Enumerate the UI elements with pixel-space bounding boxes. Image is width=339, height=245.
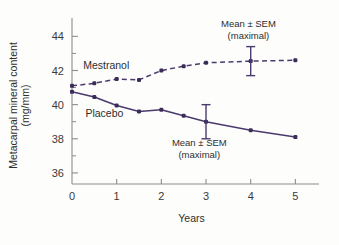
- annotation-placebo-sem-line1: Mean ± SEM: [172, 137, 227, 148]
- data-point-marker: [159, 69, 163, 73]
- y-tick-label: 38: [52, 133, 64, 145]
- y-axis-tick-labels: 3638404244: [52, 30, 64, 179]
- x-tick-label: 2: [158, 190, 164, 202]
- annotation-mestranol-sem-line2: (maximal): [228, 30, 270, 41]
- data-point-marker: [182, 114, 186, 118]
- y-tick-label: 42: [52, 65, 64, 77]
- x-tick-label: 1: [114, 190, 120, 202]
- x-axis-major-ticks: [117, 179, 296, 184]
- x-axis-group: 012345: [69, 179, 319, 202]
- labels-group: Mestranol Placebo Mean ± SEM (maximal) M…: [7, 18, 276, 224]
- x-tick-label: 5: [292, 190, 298, 202]
- y-axis-title-line1: Metacarpal mineral content: [7, 42, 19, 169]
- data-point-marker: [204, 61, 208, 65]
- y-tick-label: 40: [52, 99, 64, 111]
- annotation-placebo-sem-line2: (maximal): [178, 149, 220, 160]
- x-tick-label: 4: [248, 190, 254, 202]
- series-label-mestranol: Mestranol: [83, 59, 129, 71]
- data-point-marker: [137, 109, 141, 113]
- data-point-marker: [70, 90, 74, 94]
- data-point-marker: [293, 135, 297, 139]
- data-point-marker: [115, 77, 119, 81]
- x-axis-title: Years: [178, 212, 204, 224]
- data-point-marker: [92, 81, 96, 85]
- data-point-marker: [293, 58, 297, 62]
- series-label-placebo: Placebo: [85, 107, 123, 119]
- annotation-mestranol-sem-line1: Mean ± SEM: [221, 18, 276, 29]
- y-tick-label: 36: [52, 167, 64, 179]
- x-tick-label: 3: [203, 190, 209, 202]
- data-point-marker: [159, 108, 163, 112]
- y-tick-label: 44: [52, 30, 64, 42]
- y-axis-major-ticks: [72, 36, 78, 173]
- x-tick-label: 0: [69, 190, 75, 202]
- data-point-marker: [70, 84, 74, 88]
- y-axis-title-line2: (mg/mm): [19, 85, 31, 127]
- data-point-marker: [92, 95, 96, 99]
- data-point-marker: [249, 128, 253, 132]
- x-axis-tick-labels: 012345: [69, 190, 298, 202]
- chart-canvas: 3638404244 012345 Mestranol Placebo Mean…: [0, 0, 339, 245]
- y-axis-group: 3638404244: [52, 18, 78, 184]
- chart-figure: 3638404244 012345 Mestranol Placebo Mean…: [0, 0, 339, 245]
- data-point-marker: [182, 64, 186, 68]
- data-point-marker: [137, 78, 141, 82]
